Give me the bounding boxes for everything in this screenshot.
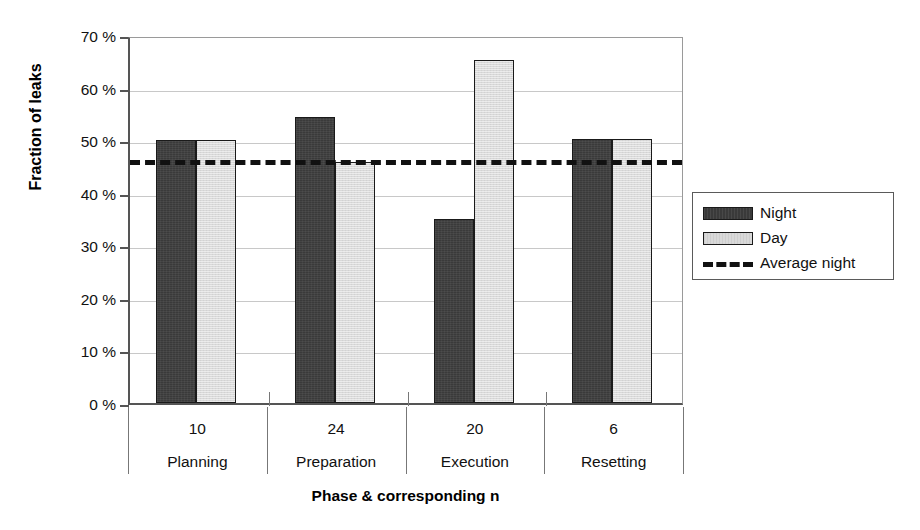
category-separator-tick xyxy=(269,392,270,406)
gridline xyxy=(130,91,682,92)
bar-planning-night xyxy=(156,140,196,403)
dashed-line-swatch xyxy=(703,257,753,270)
legend-label: Average night xyxy=(760,254,855,272)
y-axis-title: Fraction of leaks xyxy=(27,27,45,227)
legend-label: Night xyxy=(760,204,796,222)
plot-area xyxy=(128,37,683,405)
y-axis-tick-label: 20 % xyxy=(54,292,116,308)
bar-execution-day xyxy=(474,60,514,403)
bar-resetting-day xyxy=(612,139,652,403)
bar-execution-night xyxy=(434,219,474,403)
legend: NightDayAverage night xyxy=(692,192,894,280)
bar-planning-day xyxy=(196,140,236,403)
bar-resetting-night xyxy=(572,139,612,403)
x-axis-title: Phase & corresponding n xyxy=(128,487,683,505)
x-label-band-separator xyxy=(406,407,407,474)
average-night-line xyxy=(130,160,682,165)
y-axis-tick-label: 0 % xyxy=(54,397,116,413)
y-axis-tick-label: 60 % xyxy=(54,82,116,98)
category-separator-tick xyxy=(546,392,547,406)
x-axis-n-label: 20 xyxy=(406,420,545,438)
y-axis-tick-label: 40 % xyxy=(54,187,116,203)
legend-label: Day xyxy=(760,229,788,247)
x-axis-phase-label: Execution xyxy=(406,453,545,471)
x-label-band-separator xyxy=(267,407,268,474)
bar-preparation-day xyxy=(335,162,375,403)
x-label-band-separator xyxy=(544,407,545,474)
x-label-band-separator xyxy=(683,407,684,474)
dark-bar-swatch xyxy=(703,207,753,220)
legend-item: Average night xyxy=(703,251,855,275)
y-axis-tick-label: 30 % xyxy=(54,239,116,255)
x-label-band-separator xyxy=(128,407,129,474)
x-axis-n-label: 24 xyxy=(267,420,406,438)
category-separator-tick xyxy=(408,392,409,406)
x-axis-phase-label: Planning xyxy=(128,453,267,471)
x-axis-n-label: 10 xyxy=(128,420,267,438)
x-axis-n-label: 6 xyxy=(544,420,683,438)
legend-item: Night xyxy=(703,201,796,225)
light-bar-swatch xyxy=(703,232,753,245)
bar-chart: Fraction of leaks 0 %10 %20 %30 %40 %50 … xyxy=(0,0,920,530)
y-axis-tick-label: 70 % xyxy=(54,29,116,45)
y-axis-tick-label: 50 % xyxy=(54,134,116,150)
legend-item: Day xyxy=(703,226,788,250)
y-axis-tick-label: 10 % xyxy=(54,344,116,360)
x-axis-phase-label: Resetting xyxy=(544,453,683,471)
x-axis-phase-label: Preparation xyxy=(267,453,406,471)
